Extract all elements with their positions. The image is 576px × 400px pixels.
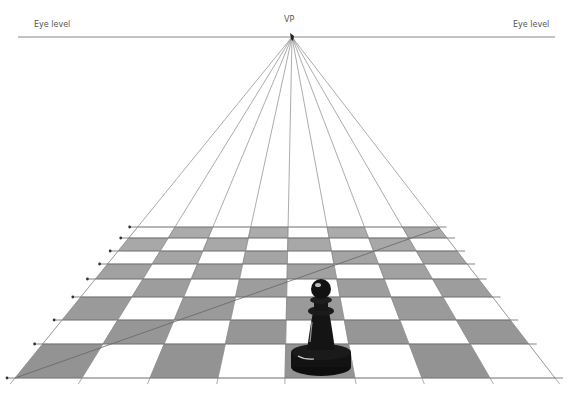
board-square [288,227,329,238]
board-square [243,251,288,264]
board-square [327,227,369,238]
board-square [287,251,334,264]
board-square [288,238,332,251]
perspective-diagram: Eye level Eye level VP [0,0,576,400]
board-square [374,251,424,264]
board-square [218,344,286,378]
board-square [191,264,243,279]
board-square [129,227,175,238]
board-square [364,227,408,238]
board-square [174,297,235,320]
board-square [168,227,213,238]
vanishing-point-label: VP [284,15,294,24]
board-square [340,297,400,320]
board-square [246,238,288,251]
board-square [379,264,433,279]
board-square [152,251,203,264]
board-square [231,297,287,320]
board-square [409,238,457,251]
board-square [344,320,409,344]
board-square [95,264,152,279]
board-square [416,251,467,264]
board-square [164,320,230,344]
board-square [208,227,250,238]
board-square [108,251,161,264]
perspective-canvas [0,0,576,400]
board-square [203,238,248,251]
board-square [184,279,240,297]
board-square [248,227,288,238]
board-square [334,264,384,279]
board-square [329,238,373,251]
board-square [424,264,479,279]
board-square [197,251,245,264]
board-square [118,238,168,251]
board-square [332,251,379,264]
eye-level-label-left: Eye level [34,20,70,29]
board-square [239,264,287,279]
eye-level-label-right: Eye level [513,20,549,29]
board-square [236,279,287,297]
board-square [225,320,286,344]
board-square [337,279,391,297]
board-square [287,264,337,279]
board-square [402,227,447,238]
